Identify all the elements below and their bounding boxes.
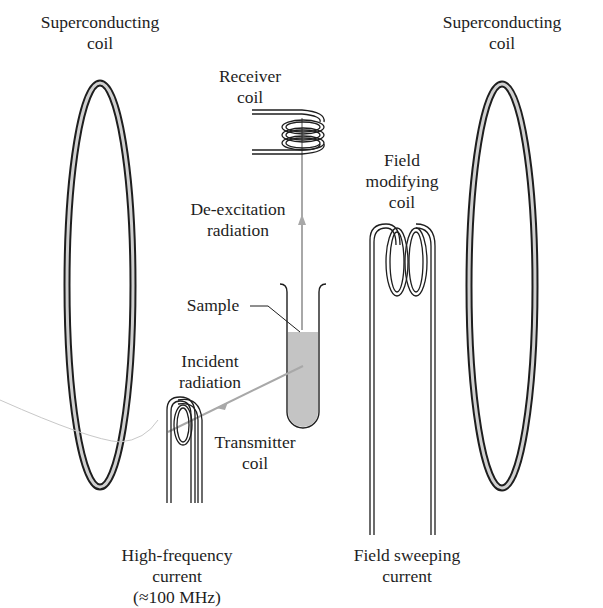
label-line: radiation <box>179 372 241 393</box>
label-high-frequency-current: High-frequency current (≈100 MHz) <box>122 545 233 608</box>
superconducting-coil-left <box>67 83 133 487</box>
label-line: coil <box>443 33 562 54</box>
superconducting-coil-right <box>469 84 535 488</box>
receiver-coil <box>252 110 324 154</box>
label-line: radiation <box>190 220 285 241</box>
sample-leader-line <box>250 306 300 332</box>
label-superconducting-coil-left: Superconducting coil <box>41 12 160 54</box>
label-field-modifying-coil: Field modifying coil <box>366 150 439 213</box>
label-line: current <box>354 566 460 587</box>
label-sample: Sample <box>187 295 240 316</box>
label-line: Superconducting <box>443 12 562 33</box>
transmitter-coil <box>167 397 202 503</box>
label-line: Field <box>366 150 439 171</box>
label-receiver-coil: Receiver coil <box>219 66 281 108</box>
label-line: Incident <box>179 351 241 372</box>
label-line: High-frequency <box>122 545 233 566</box>
label-line: (≈100 MHz) <box>122 587 233 608</box>
label-line: coil <box>214 453 295 474</box>
label-line: De-excitation <box>190 199 285 220</box>
label-line: Field sweeping <box>354 545 460 566</box>
field-modifying-coil <box>370 224 435 535</box>
label-transmitter-coil: Transmitter coil <box>214 432 295 474</box>
label-line: coil <box>366 192 439 213</box>
label-line: coil <box>41 33 160 54</box>
label-line: Receiver <box>219 66 281 87</box>
label-line: modifying <box>366 171 439 192</box>
label-field-sweeping-current: Field sweeping current <box>354 545 460 587</box>
label-line: Superconducting <box>41 12 160 33</box>
label-line: current <box>122 566 233 587</box>
label-line: Transmitter <box>214 432 295 453</box>
label-line: coil <box>219 87 281 108</box>
label-de-excitation-radiation: De-excitation radiation <box>190 199 285 241</box>
label-incident-radiation: Incident radiation <box>179 351 241 393</box>
label-line: Sample <box>187 295 240 316</box>
label-superconducting-coil-right: Superconducting coil <box>443 12 562 54</box>
